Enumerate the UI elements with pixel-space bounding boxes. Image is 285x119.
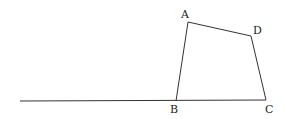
baseline xyxy=(20,100,266,101)
label-b: B xyxy=(170,103,178,116)
label-a: A xyxy=(180,8,190,21)
label-c: C xyxy=(265,103,273,116)
quadrilateral-diagram: A D B C xyxy=(0,0,285,119)
label-d: D xyxy=(253,24,262,37)
